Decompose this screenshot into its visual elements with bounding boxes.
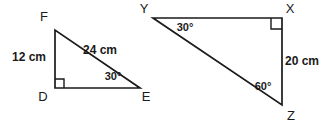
triangle-def: F D E 12 cm 24 cm 30° <box>12 9 151 104</box>
geometry-diagram: F D E 12 cm 24 cm 30° Y X Z 20 cm 30° 60… <box>0 0 329 128</box>
vertex-label-e: E <box>142 89 151 104</box>
side-label-df: 12 cm <box>12 50 46 64</box>
vertex-label-y: Y <box>140 1 149 16</box>
side-label-xz: 20 cm <box>285 54 319 68</box>
vertex-label-x: X <box>286 1 295 16</box>
side-label-fe: 24 cm <box>83 43 117 57</box>
right-angle-mark-d <box>55 79 64 88</box>
vertex-label-d: D <box>38 89 47 104</box>
vertex-label-f: F <box>40 9 48 24</box>
vertex-label-z: Z <box>287 108 295 123</box>
angle-label-e: 30° <box>105 70 122 82</box>
geometry-figure-canvas: F D E 12 cm 24 cm 30° Y X Z 20 cm 30° 60… <box>0 0 329 128</box>
angle-label-z: 60° <box>255 80 272 92</box>
triangle-xyz: Y X Z 20 cm 30° 60° <box>140 1 319 123</box>
angle-label-y: 30° <box>177 21 194 33</box>
triangle-def-outline <box>55 30 140 88</box>
right-angle-mark-x <box>271 18 282 29</box>
